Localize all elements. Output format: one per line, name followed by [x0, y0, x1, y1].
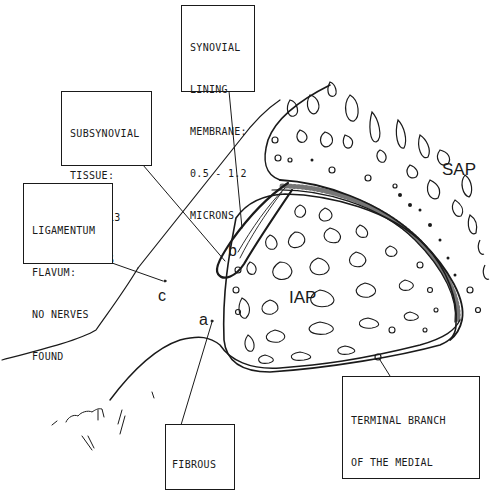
callout-terminal-branch: TERMINAL BRANCH OF THE MEDIAL BRANCH OF …: [342, 376, 480, 479]
region-label-sap: SAP: [442, 161, 476, 178]
callout-line: FOUND: [32, 350, 106, 364]
point-label-c: c: [158, 288, 166, 304]
callout-ligamentum-flavum: LIGAMENTUM FLAVUM: NO NERVES FOUND: [23, 183, 113, 264]
torn-edge: [52, 392, 154, 450]
point-a-dot: [211, 320, 213, 322]
callout-line: MICRONS: [190, 209, 248, 223]
callout-line: SYNOVIAL: [190, 41, 248, 55]
callout-line: TISSUE:: [70, 169, 145, 183]
callout-line: LIGAMENTUM: [32, 224, 106, 238]
callout-fibrous-capsule: FIBROUS CAPSULE: 0.2 - 45 MICRONS: [165, 424, 235, 490]
point-label-a: a: [199, 312, 208, 328]
callout-line: 0.5 - 1.2: [190, 167, 248, 181]
leader-terminal-branch: [380, 360, 390, 376]
point-c-dot: [164, 280, 166, 282]
callout-subsynovial-tissue: SUBSYNOVIAL TISSUE: 0.2 - 13 MICRONS: [61, 91, 152, 166]
callout-line: OF THE MEDIAL: [351, 456, 473, 470]
facet-joint-diagram: SAP IAP a b c SYNOVIAL LINING MEMBRANE: …: [0, 0, 497, 494]
region-label-iap: IAP: [289, 289, 316, 306]
callout-line: SUBSYNOVIAL: [70, 127, 145, 141]
callout-line: TERMINAL BRANCH: [351, 414, 473, 428]
callout-line: FIBROUS: [172, 458, 230, 472]
callout-line: FLAVUM:: [32, 266, 106, 280]
callout-line: MEMBRANE:: [190, 125, 248, 139]
callout-line: NO NERVES: [32, 308, 106, 322]
callout-synovial-lining-membrane: SYNOVIAL LINING MEMBRANE: 0.5 - 1.2 MICR…: [181, 5, 255, 92]
sap-trabeculae: [272, 82, 489, 313]
callout-line: LINING: [190, 83, 248, 97]
